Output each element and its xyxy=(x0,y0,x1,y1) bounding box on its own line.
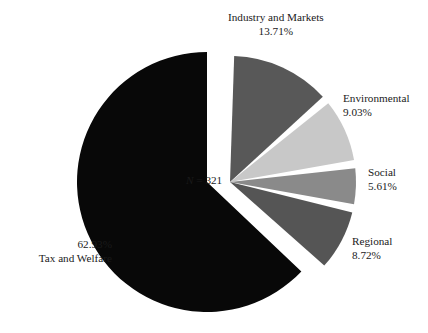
slice-label-percent: 5.61% xyxy=(368,180,397,194)
pie-chart: Industry and Markets 13.71% Environmenta… xyxy=(0,0,428,333)
pie-chart-canvas xyxy=(0,0,428,333)
slice-label-percent: 13.71% xyxy=(228,25,324,39)
slice-label-name: Regional xyxy=(352,235,392,249)
slice-label-environmental: Environmental 9.03% xyxy=(343,92,410,119)
slice-label-tax-and-welfare: 62.93% Tax and Welfare xyxy=(8,238,112,265)
slice-label-industry-and-markets: Industry and Markets 13.71% xyxy=(228,11,324,38)
slice-label-percent: 9.03% xyxy=(343,106,410,120)
sample-size-equals: = xyxy=(193,174,205,186)
slice-label-name: Industry and Markets xyxy=(228,11,324,25)
slice-label-name: Environmental xyxy=(343,92,410,106)
slice-label-percent: 8.72% xyxy=(352,249,392,263)
slice-label-percent: 62.93% xyxy=(8,238,112,252)
slice-label-name: Tax and Welfare xyxy=(8,252,112,266)
slice-label-social: Social 5.61% xyxy=(368,166,397,193)
sample-size-annotation: N = 321 xyxy=(186,174,222,186)
slice-label-name: Social xyxy=(368,166,397,180)
slice-label-regional: Regional 8.72% xyxy=(352,235,392,262)
sample-size-value: 321 xyxy=(205,174,222,186)
